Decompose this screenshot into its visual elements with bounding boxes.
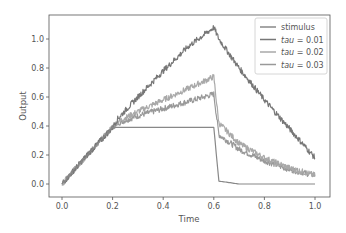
y-tick-label: 0.0: [31, 180, 44, 189]
x-tick-label: 0.4: [157, 202, 170, 211]
legend-label: tau = 0.03: [281, 61, 324, 70]
x-tick-label: 0.0: [56, 202, 69, 211]
y-axis-label: Output: [18, 91, 28, 121]
line-chart: 0.00.20.40.60.81.0 0.00.20.40.60.81.0 Ti…: [0, 0, 346, 233]
y-tick-label: 0.6: [31, 93, 44, 102]
series-line: [62, 127, 315, 184]
legend-label: stimulus: [281, 23, 315, 32]
x-tick-label: 0.6: [207, 202, 220, 211]
y-tick-label: 0.8: [31, 64, 44, 73]
x-axis-ticks: 0.00.20.40.60.81.0: [56, 197, 322, 211]
legend: stimulustau = 0.01tau = 0.02tau = 0.03: [255, 18, 327, 74]
x-tick-label: 0.2: [106, 202, 119, 211]
y-tick-label: 1.0: [31, 35, 44, 44]
x-tick-label: 0.8: [258, 202, 271, 211]
y-tick-label: 0.4: [31, 122, 44, 131]
x-tick-label: 1.0: [309, 202, 322, 211]
y-axis-ticks: 0.00.20.40.60.81.0: [31, 35, 49, 189]
series-line: [62, 75, 315, 186]
x-axis-label: Time: [178, 214, 200, 224]
y-tick-label: 0.2: [31, 151, 44, 160]
legend-label: tau = 0.01: [281, 36, 324, 45]
legend-label: tau = 0.02: [281, 48, 324, 57]
